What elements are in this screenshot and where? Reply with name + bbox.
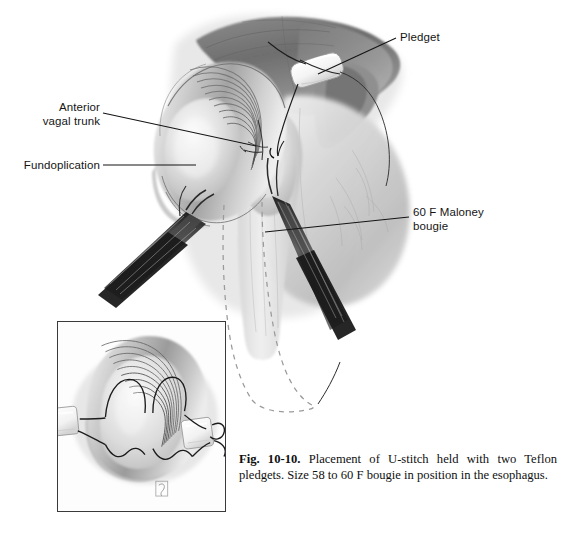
label-maloney-bougie-line1: 60 F Maloney xyxy=(413,206,533,220)
inset-illustration xyxy=(58,322,225,511)
figure-number: Fig. 10-10. xyxy=(239,452,300,466)
inset-pledget-left xyxy=(58,406,79,437)
label-pledget: Pledget xyxy=(400,31,440,45)
label-maloney-bougie: 60 F Maloney bougie xyxy=(413,206,533,233)
figure-container: Anterior vagal trunk Fundoplication Pled… xyxy=(0,0,571,542)
label-anterior-vagal-trunk: Anterior vagal trunk xyxy=(0,101,100,128)
label-fundoplication: Fundoplication xyxy=(0,159,100,173)
inset-pledget-right xyxy=(181,417,214,450)
figure-caption: Fig. 10-10. Placement of U-stitch held w… xyxy=(239,452,557,483)
label-anterior-vagal-trunk-line2: vagal trunk xyxy=(0,115,100,129)
label-maloney-bougie-line2: bougie xyxy=(413,220,533,234)
suture-tail xyxy=(318,362,340,404)
inset-panel-u-stitch: U-stitch xyxy=(57,321,226,512)
label-anterior-vagal-trunk-line1: Anterior xyxy=(0,101,100,115)
